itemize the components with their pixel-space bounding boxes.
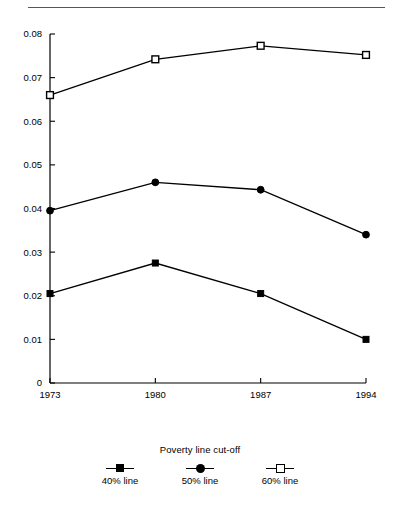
y-tick-label: 0.07 <box>24 72 43 83</box>
data-point-marker <box>257 186 264 193</box>
data-point-marker <box>152 179 159 186</box>
y-tick-label: 0.01 <box>24 334 43 345</box>
data-series <box>47 42 370 98</box>
legend-label-50: 50% line <box>182 475 218 486</box>
data-point-marker <box>363 231 370 238</box>
legend-item-40[interactable]: 40% line <box>89 462 151 486</box>
x-tick-label: 1987 <box>250 389 271 400</box>
series-line <box>50 46 366 95</box>
y-axis-tick-labels: 00.010.020.030.040.050.060.070.08 <box>24 28 43 388</box>
legend-marker-filled-circle-icon <box>180 462 220 474</box>
series-line <box>50 263 366 339</box>
y-tick-label: 0.02 <box>24 290 43 301</box>
line-chart-plot: 00.010.020.030.040.050.060.070.08 197319… <box>0 0 400 509</box>
legend-label-40: 40% line <box>102 475 138 486</box>
data-point-marker <box>152 56 159 63</box>
data-point-marker <box>47 207 54 214</box>
y-tick-label: 0.05 <box>24 159 43 170</box>
data-point-marker <box>152 260 158 266</box>
chart-legend: 40% line 50% line 60% line <box>0 462 400 486</box>
data-point-marker <box>363 52 370 59</box>
data-point-marker <box>363 336 369 342</box>
y-tick-label: 0.04 <box>24 203 43 214</box>
legend-item-50[interactable]: 50% line <box>169 462 231 486</box>
data-point-marker <box>47 92 54 99</box>
data-point-marker <box>258 291 264 297</box>
y-tick-label: 0.06 <box>24 116 43 127</box>
x-axis-tick-labels: 1973198019871994 <box>39 389 376 400</box>
data-series-layer <box>47 42 370 342</box>
chart-figure: 00.010.020.030.040.050.060.070.08 197319… <box>0 0 400 509</box>
legend-marker-filled-square-icon <box>100 462 140 474</box>
y-tick-label: 0 <box>37 377 42 388</box>
legend-title: Poverty line cut-off <box>0 444 400 455</box>
y-tick-label: 0.03 <box>24 247 43 258</box>
chart-axes <box>50 34 366 383</box>
x-tick-label: 1973 <box>39 389 60 400</box>
x-tick-label: 1994 <box>355 389 376 400</box>
y-tick-label: 0.08 <box>24 28 43 39</box>
x-axis-ticks <box>50 378 366 383</box>
legend-label-60: 60% line <box>262 475 298 486</box>
data-series <box>47 179 370 238</box>
series-line <box>50 182 366 234</box>
data-point-marker <box>257 42 264 49</box>
x-tick-label: 1980 <box>145 389 166 400</box>
legend-item-60[interactable]: 60% line <box>249 462 311 486</box>
data-series <box>47 260 369 342</box>
legend-marker-open-square-icon <box>260 462 300 474</box>
data-point-marker <box>47 291 53 297</box>
